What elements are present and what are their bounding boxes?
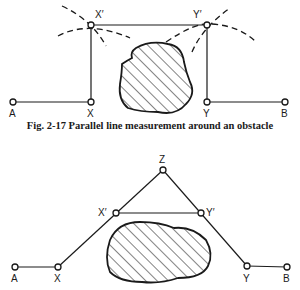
point-b: [284, 264, 290, 270]
label-x-prime: X′: [98, 207, 107, 218]
obstacle-blob: [107, 222, 211, 283]
point-a: [10, 99, 16, 105]
label-y: Y: [203, 108, 210, 119]
label-x-prime: X′: [95, 9, 104, 20]
line-y-b: [247, 266, 287, 267]
point-x: [88, 99, 94, 105]
label-b: B: [283, 273, 290, 284]
point-x-prime: [88, 22, 94, 28]
point-z: [160, 167, 166, 173]
label-y-prime: Y′: [206, 207, 215, 218]
point-y-prime: [198, 210, 204, 216]
label-b: B: [281, 108, 288, 119]
label-x: X: [54, 273, 61, 284]
label-x: X: [87, 108, 94, 119]
figure-parallel-line: A X X′ Y′ Y B: [9, 6, 288, 119]
point-y: [244, 263, 250, 269]
point-a: [12, 264, 18, 270]
label-y: Y: [243, 273, 250, 284]
figure-triangle: Z X′ Y′ A X Y B: [11, 154, 290, 284]
point-y: [204, 99, 210, 105]
obstacle-blob: [120, 43, 193, 113]
label-a: A: [9, 108, 16, 119]
label-z: Z: [159, 154, 165, 165]
point-b: [282, 99, 288, 105]
point-x-prime: [113, 210, 119, 216]
figure-caption: Fig. 2-17 Parallel line measurement arou…: [0, 120, 300, 131]
diagram-canvas: A X X′ Y′ Y B Z X′ Y′ A X Y B: [0, 0, 300, 290]
label-y-prime: Y′: [193, 9, 202, 20]
point-x: [55, 264, 61, 270]
point-y-prime: [204, 22, 210, 28]
label-a: A: [11, 273, 18, 284]
